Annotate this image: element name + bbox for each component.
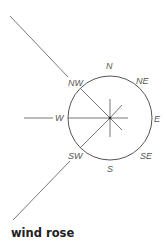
wind-line-sw-outer (13, 161, 70, 220)
diagram-caption: wind rose (11, 226, 74, 240)
label-n: N (106, 61, 113, 71)
label-ne: NE (136, 76, 149, 86)
label-nw: NW (68, 78, 84, 88)
wind-line-nw-inner (80, 88, 110, 118)
wind-line-sw-inner (80, 118, 110, 148)
spoke-ne (110, 105, 122, 118)
label-sw: SW (68, 151, 84, 161)
wind-rose-diagram: N NE E SE S SW W NW (0, 0, 167, 251)
label-e: E (154, 114, 161, 124)
label-s: S (107, 164, 113, 174)
label-se: SE (140, 151, 153, 161)
wind-line-nw-outer (10, 16, 68, 77)
label-w: W (55, 113, 65, 123)
center-dot (109, 117, 112, 120)
spoke-se (110, 118, 122, 130)
